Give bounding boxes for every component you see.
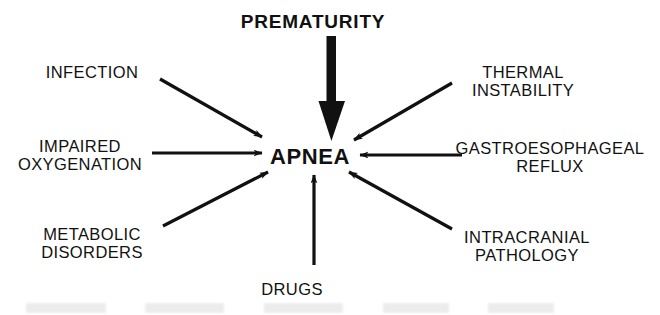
arrow-intracranial-pathology-to-apnea [349, 172, 452, 229]
apnea-cause-diagram: PREMATURITY APNEA INFECTION THERMAL INST… [0, 0, 660, 315]
node-metabolic-disorders: METABOLIC DISORDERS [41, 225, 143, 262]
node-metabolic-disorders-line-1: METABOLIC [41, 225, 143, 243]
node-apnea: APNEA [270, 145, 350, 170]
node-impaired-oxygenation-line-2: OXYGENATION [18, 155, 142, 173]
node-intracranial-pathology: INTRACRANIAL PATHOLOGY [464, 228, 590, 265]
node-gastroesophageal-reflux-line-2: REFLUX [456, 157, 645, 175]
node-infection-line-1: INFECTION [46, 63, 139, 81]
node-impaired-oxygenation: IMPAIRED OXYGENATION [18, 137, 142, 174]
node-gastroesophageal-reflux-line-1: GASTROESOPHAGEAL [456, 139, 645, 157]
node-thermal-instability-line-1: THERMAL [472, 63, 574, 81]
node-apnea-line-1: APNEA [270, 145, 350, 170]
cropped-caption-remnant [0, 303, 660, 313]
arrow-infection-to-apnea [160, 79, 262, 137]
node-intracranial-pathology-line-1: INTRACRANIAL [464, 228, 590, 246]
arrow-metabolic-disorders-to-apnea [163, 172, 268, 226]
node-prematurity: PREMATURITY [241, 11, 386, 32]
node-thermal-instability: THERMAL INSTABILITY [472, 63, 574, 100]
arrow-thermal-instability-to-apnea [354, 83, 452, 140]
node-infection: INFECTION [46, 63, 139, 81]
node-impaired-oxygenation-line-1: IMPAIRED [18, 137, 142, 155]
node-drugs-line-1: DRUGS [261, 280, 323, 298]
node-prematurity-line-1: PREMATURITY [241, 11, 386, 32]
node-metabolic-disorders-line-2: DISORDERS [41, 243, 143, 261]
node-thermal-instability-line-2: INSTABILITY [472, 81, 574, 99]
arrow-prematurity-to-apnea [319, 36, 346, 141]
node-drugs: DRUGS [261, 280, 323, 298]
node-intracranial-pathology-line-2: PATHOLOGY [464, 246, 590, 264]
node-gastroesophageal-reflux: GASTROESOPHAGEAL REFLUX [456, 139, 645, 176]
